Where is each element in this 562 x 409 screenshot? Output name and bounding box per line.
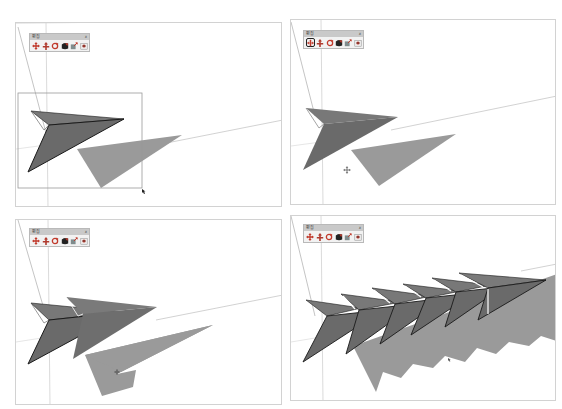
move-icon — [32, 237, 40, 245]
follow-me-icon — [335, 233, 343, 241]
move-tool-button[interactable] — [306, 232, 315, 241]
viewport-panel-copy[interactable]: 편집x — [15, 219, 282, 405]
scene-canvas[interactable] — [291, 216, 556, 401]
rotate-tool-button[interactable] — [325, 38, 333, 47]
scale-tool-button[interactable] — [70, 236, 79, 245]
arrow-shadow — [351, 134, 456, 186]
move-icon — [32, 42, 40, 50]
toolbar-title: 편집 — [306, 31, 314, 36]
toolbar-title-bar[interactable]: 편집x — [304, 225, 363, 231]
toolbar-title-bar[interactable]: 편집x — [30, 229, 89, 235]
scene-canvas[interactable] — [16, 220, 282, 405]
toolbar-title: 편집 — [32, 229, 40, 234]
rotate-tool-button[interactable] — [51, 236, 60, 245]
scale-tool-button[interactable] — [70, 41, 79, 50]
offset-tool-button[interactable] — [354, 232, 363, 241]
push-pull-icon — [42, 42, 50, 50]
toolbar-close-button[interactable]: x — [359, 225, 361, 231]
toolbar-close-button[interactable]: x — [85, 229, 87, 235]
toolbar-close-button[interactable]: x — [85, 34, 87, 40]
push-pull-tool-button[interactable] — [42, 41, 51, 50]
red-axis-line — [156, 295, 282, 320]
scale-icon — [344, 39, 352, 47]
push-pull-tool-button[interactable] — [316, 232, 325, 241]
push-pull-icon — [316, 39, 324, 47]
move-tool-button[interactable] — [32, 41, 41, 50]
offset-icon — [354, 233, 362, 241]
follow-me-icon — [61, 42, 69, 50]
follow-me-tool-button[interactable] — [61, 41, 70, 50]
edit-toolbar[interactable]: 편집x — [303, 30, 364, 49]
offset-icon — [80, 237, 88, 245]
offset-icon — [354, 39, 362, 47]
arrow-shadow — [77, 135, 182, 188]
push-pull-icon — [316, 233, 324, 241]
scale-icon — [344, 233, 352, 241]
cursor-arrow-icon — [142, 189, 146, 194]
red-axis-line — [521, 264, 556, 271]
move-tool-button[interactable] — [32, 236, 41, 245]
viewport-panel-select[interactable]: 편집x — [15, 22, 282, 207]
scale-icon — [70, 42, 78, 50]
move-icon — [307, 39, 314, 47]
offset-tool-button[interactable] — [354, 38, 362, 47]
cursor-icon — [448, 358, 451, 362]
toolbar-title-bar[interactable]: 편집x — [304, 31, 363, 37]
rotate-tool-button[interactable] — [51, 41, 60, 50]
scale-tool-button[interactable] — [344, 232, 353, 241]
move-icon — [306, 233, 314, 241]
scale-tool-button[interactable] — [344, 38, 352, 47]
edit-toolbar[interactable]: 편집x — [29, 228, 90, 247]
offset-icon — [80, 42, 88, 50]
toolbar-close-button[interactable]: x — [359, 31, 361, 37]
rotate-tool-button[interactable] — [325, 232, 334, 241]
follow-me-icon — [61, 237, 69, 245]
push-pull-icon — [42, 237, 50, 245]
rotate-icon — [326, 39, 334, 47]
red-axis-line — [391, 96, 556, 130]
toolbar-title: 편집 — [306, 225, 314, 230]
follow-me-tool-button[interactable] — [335, 232, 344, 241]
push-pull-tool-button[interactable] — [42, 236, 51, 245]
toolbar-title-bar[interactable]: 편집x — [30, 34, 89, 40]
offset-tool-button[interactable] — [80, 236, 89, 245]
rotate-icon — [51, 237, 59, 245]
edit-toolbar[interactable]: 편집x — [29, 33, 90, 52]
push-pull-tool-button[interactable] — [316, 38, 324, 47]
follow-me-tool-button[interactable] — [61, 236, 70, 245]
edit-toolbar[interactable]: 편집x — [303, 224, 364, 243]
move-cursor-icon — [343, 166, 351, 174]
follow-me-icon — [335, 39, 343, 47]
viewport-panel-move[interactable]: 편집x — [290, 19, 556, 205]
toolbar-title: 편집 — [32, 34, 40, 39]
offset-tool-button[interactable] — [80, 41, 89, 50]
scale-icon — [70, 237, 78, 245]
rotate-icon — [51, 42, 59, 50]
rotate-icon — [325, 233, 333, 241]
viewport-panel-array[interactable]: 편집x — [290, 215, 556, 401]
follow-me-tool-button[interactable] — [335, 38, 343, 47]
move-tool-button[interactable] — [306, 38, 315, 47]
